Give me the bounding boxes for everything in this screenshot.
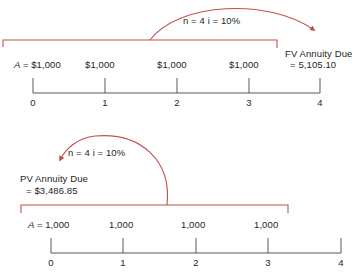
pv-tick-1: 1 bbox=[113, 257, 133, 268]
annuity-due-figure: n = 4 i = 10% A = $1,000 $1,000 $1,000 $… bbox=[0, 0, 358, 275]
fv-payment-0: A = $1,000 bbox=[14, 59, 61, 70]
pv-payment-3: 1,000 bbox=[254, 219, 278, 230]
fv-payment-1: $1,000 bbox=[85, 59, 115, 70]
pv-result-line2: = $3,486.85 bbox=[26, 185, 78, 197]
fv-payment-0-value: $1,000 bbox=[31, 59, 61, 70]
fv-timeline-axis bbox=[33, 78, 320, 93]
pv-rate-label: n = 4 i = 10% bbox=[68, 147, 125, 158]
pv-bracket bbox=[21, 205, 288, 213]
pv-result-line1: PV Annuity Due bbox=[20, 173, 88, 185]
pv-payment-0: A = 1,000 bbox=[28, 219, 70, 230]
fv-tick-2: 2 bbox=[167, 97, 187, 108]
pv-payment-2: 1,000 bbox=[181, 219, 205, 230]
pv-payment-1: 1,000 bbox=[109, 219, 133, 230]
fv-result-line1: FV Annuity Due bbox=[285, 48, 352, 60]
pv-tick-2: 2 bbox=[186, 257, 206, 268]
fv-tick-1: 1 bbox=[95, 97, 115, 108]
fv-result-line2: = 5,105.10 bbox=[290, 59, 336, 71]
fv-rate-label: n = 4 i = 10% bbox=[183, 15, 240, 26]
pv-tick-0: 0 bbox=[41, 257, 61, 268]
pv-timeline-axis bbox=[51, 238, 341, 253]
pv-payment-0-value: 1,000 bbox=[45, 219, 69, 230]
fv-payment-2: $1,000 bbox=[157, 59, 187, 70]
fv-bracket bbox=[3, 40, 277, 48]
fv-payment-prefix: A = bbox=[14, 59, 28, 70]
fv-payment-3: $1,000 bbox=[229, 59, 259, 70]
pv-tick-3: 3 bbox=[258, 257, 278, 268]
fv-panel-graphics bbox=[0, 0, 358, 275]
fv-tick-4: 4 bbox=[310, 97, 330, 108]
fv-tick-0: 0 bbox=[23, 97, 43, 108]
pv-tick-4: 4 bbox=[331, 257, 351, 268]
pv-payment-prefix: A = bbox=[28, 219, 42, 230]
fv-tick-3: 3 bbox=[239, 97, 259, 108]
